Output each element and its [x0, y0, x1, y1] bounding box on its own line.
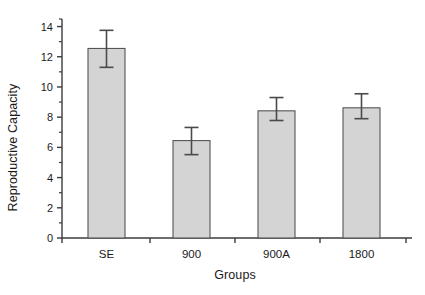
- y-tick-label: 4: [47, 172, 53, 184]
- y-tick-label: 6: [47, 141, 53, 153]
- y-tick-label: 10: [41, 81, 53, 93]
- plot-area: 02468101214SE900900A1800: [0, 0, 425, 295]
- x-tick-label: 1800: [349, 248, 375, 260]
- y-tick-label: 0: [47, 232, 53, 244]
- bar: [343, 108, 380, 238]
- bar: [258, 111, 295, 238]
- bar-chart-figure: Reproductive Capacity Groups 02468101214…: [0, 0, 425, 295]
- y-tick-label: 8: [47, 111, 53, 123]
- bar: [88, 48, 125, 238]
- x-tick-label: 900A: [263, 248, 290, 260]
- x-tick-label: SE: [99, 248, 115, 260]
- y-tick-label: 12: [41, 51, 53, 63]
- y-tick-label: 2: [47, 202, 53, 214]
- y-tick-label: 14: [41, 21, 53, 33]
- x-tick-label: 900: [182, 248, 201, 260]
